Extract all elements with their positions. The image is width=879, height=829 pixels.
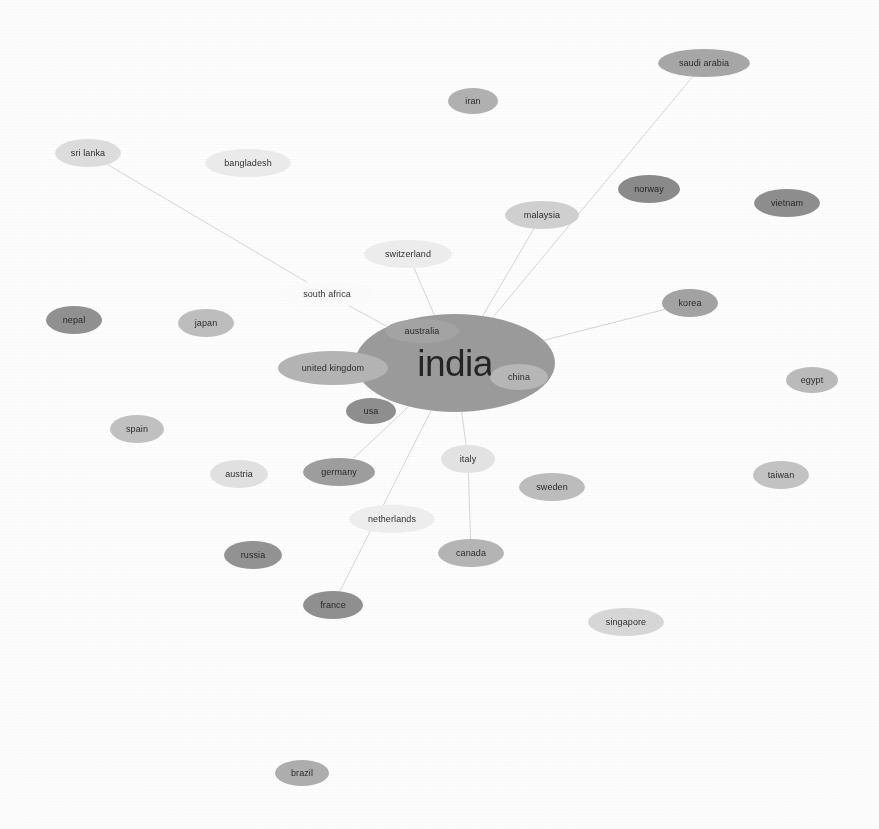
graph-edge (107, 164, 307, 282)
graph-node-label: canada (456, 549, 486, 558)
graph-node-label: australia (405, 327, 440, 336)
graph-node-united-kingdom[interactable]: united kingdom (278, 351, 388, 385)
graph-node-taiwan[interactable]: taiwan (753, 461, 809, 489)
graph-node-label: nepal (63, 316, 86, 325)
graph-node-russia[interactable]: russia (224, 541, 282, 569)
graph-node-label: switzerland (385, 250, 431, 259)
graph-node-label: united kingdom (302, 364, 364, 373)
graph-node-label: iran (465, 97, 480, 106)
graph-node-label: usa (364, 407, 379, 416)
graph-node-label: sweden (536, 483, 568, 492)
graph-node-china[interactable]: china (490, 364, 548, 390)
graph-node-vietnam[interactable]: vietnam (754, 189, 820, 217)
graph-node-south-africa[interactable]: south africa (280, 281, 374, 307)
graph-node-singapore[interactable]: singapore (588, 608, 664, 636)
graph-node-germany[interactable]: germany (303, 458, 375, 486)
graph-node-label: japan (195, 319, 218, 328)
graph-node-label: india (417, 345, 493, 382)
graph-node-label: bangladesh (224, 159, 272, 168)
graph-node-label: brazil (291, 769, 313, 778)
graph-node-label: norway (634, 185, 664, 194)
graph-node-label: spain (126, 425, 148, 434)
graph-node-brazil[interactable]: brazil (275, 760, 329, 786)
graph-node-label: korea (678, 299, 701, 308)
graph-node-norway[interactable]: norway (618, 175, 680, 203)
graph-edge (468, 473, 470, 539)
graph-node-label: china (508, 373, 530, 382)
graph-node-korea[interactable]: korea (662, 289, 718, 317)
graph-node-sweden[interactable]: sweden (519, 473, 585, 501)
graph-edge (483, 229, 534, 316)
graph-node-italy[interactable]: italy (441, 445, 495, 473)
graph-node-label: france (320, 601, 346, 610)
graph-edge (544, 309, 665, 340)
network-graph-canvas: indiaaustraliachinaunited kingdomusasout… (0, 0, 879, 829)
graph-node-label: italy (460, 455, 477, 464)
graph-node-label: russia (241, 551, 266, 560)
graph-node-bangladesh[interactable]: bangladesh (205, 149, 291, 177)
graph-node-netherlands[interactable]: netherlands (349, 505, 435, 533)
graph-node-label: singapore (606, 618, 646, 627)
graph-node-label: taiwan (768, 471, 795, 480)
graph-node-iran[interactable]: iran (448, 88, 498, 114)
graph-node-label: netherlands (368, 515, 416, 524)
graph-node-label: malaysia (524, 211, 560, 220)
graph-edge (340, 411, 431, 592)
graph-node-japan[interactable]: japan (178, 309, 234, 337)
graph-edge (348, 306, 387, 327)
graph-node-label: south africa (303, 290, 351, 299)
graph-edge (462, 412, 466, 445)
graph-node-sri-lanka[interactable]: sri lanka (55, 139, 121, 167)
graph-node-label: sri lanka (71, 149, 105, 158)
graph-node-label: vietnam (771, 199, 803, 208)
graph-node-label: austria (225, 470, 253, 479)
graph-node-egypt[interactable]: egypt (786, 367, 838, 393)
graph-node-nepal[interactable]: nepal (46, 306, 102, 334)
graph-node-france[interactable]: france (303, 591, 363, 619)
graph-node-australia[interactable]: australia (385, 319, 459, 343)
graph-node-malaysia[interactable]: malaysia (505, 201, 579, 229)
graph-node-saudi-arabia[interactable]: saudi arabia (658, 49, 750, 77)
graph-node-switzerland[interactable]: switzerland (364, 240, 452, 268)
graph-node-austria[interactable]: austria (210, 460, 268, 488)
graph-node-label: saudi arabia (679, 59, 729, 68)
graph-node-label: egypt (801, 376, 824, 385)
graph-edge (414, 268, 434, 315)
graph-node-canada[interactable]: canada (438, 539, 504, 567)
graph-node-usa[interactable]: usa (346, 398, 396, 424)
graph-node-label: germany (321, 468, 357, 477)
graph-node-spain[interactable]: spain (110, 415, 164, 443)
